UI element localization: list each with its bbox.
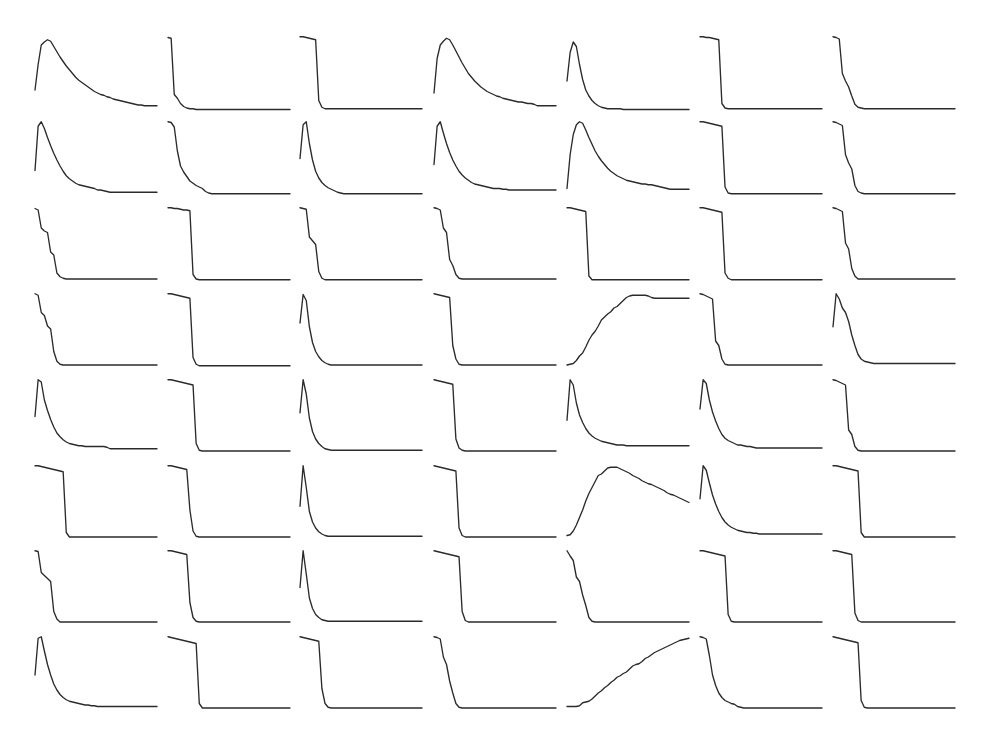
sparkline-r6c2 [168,466,290,537]
sparkline-r7c1 [35,551,157,622]
sparkline-r2c5 [567,122,689,190]
sparkline-r6c3 [300,466,422,537]
sparkline-r5c6 [700,380,822,448]
sparkline-r4c2 [168,294,290,366]
sparkline-r1c5 [567,42,689,110]
sparkline-r3c6 [700,208,822,280]
sparkline-r7c2 [168,551,290,622]
sparkline-grid [0,0,981,732]
sparkline-r6c6 [700,466,822,534]
sparkline-r4c5 [567,295,689,365]
sparkline-r8c3 [300,637,422,708]
sparkline-r8c1 [35,637,157,707]
sparkline-r7c5 [567,551,689,622]
sparkline-r1c3 [300,37,422,109]
sparkline-r4c1 [35,294,157,365]
sparkline-r2c7 [833,122,955,194]
sparkline-r6c4 [434,466,556,537]
sparkline-r8c4 [434,637,556,708]
sparkline-r1c7 [833,37,955,109]
sparkline-r3c3 [300,208,422,280]
sparkline-r2c1 [35,122,157,193]
sparkline-r7c7 [833,551,955,622]
sparkline-r4c7 [833,294,955,364]
sparkline-r2c3 [300,122,422,194]
sparkline-r5c5 [567,380,689,446]
sparkline-r5c7 [833,380,955,451]
sparkline-r4c6 [700,294,822,365]
sparkline-r5c1 [35,380,157,449]
sparkline-r1c2 [168,38,290,110]
sparkline-r3c1 [35,209,157,280]
sparkline-r5c3 [300,380,422,451]
small-multiples-figure [0,0,981,732]
sparkline-r2c6 [700,122,822,194]
sparkline-r8c7 [833,637,955,708]
sparkline-r6c7 [833,466,955,537]
sparkline-r2c4 [434,122,556,190]
sparkline-r4c4 [434,294,556,365]
sparkline-r1c6 [700,37,822,109]
sparkline-r8c6 [700,637,822,708]
sparkline-r5c2 [168,380,290,451]
sparkline-r3c4 [434,208,556,279]
sparkline-r1c1 [35,40,157,106]
sparkline-r6c5 [567,467,689,535]
sparkline-r6c1 [35,466,157,537]
sparkline-r8c5 [567,638,689,706]
sparkline-r4c3 [300,295,422,366]
sparkline-r7c3 [300,551,422,622]
sparkline-r7c6 [700,551,822,622]
sparkline-r7c4 [434,551,556,622]
sparkline-r3c5 [567,208,689,280]
sparkline-r2c2 [168,122,290,194]
sparkline-r3c2 [168,208,290,280]
sparkline-r1c4 [434,38,556,106]
sparkline-r8c2 [168,637,290,708]
sparkline-r3c7 [833,208,955,279]
sparkline-r5c4 [434,380,556,451]
